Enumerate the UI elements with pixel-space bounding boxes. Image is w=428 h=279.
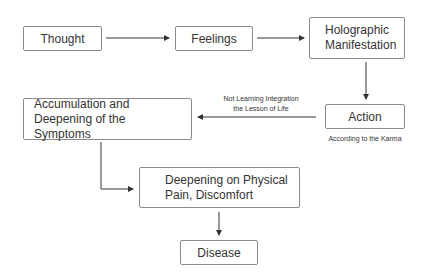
node-deepening-label: Deepening on Physical Pain, Discomfort <box>165 173 289 203</box>
node-holographic-label: Holographic Manifestation <box>325 23 396 53</box>
node-feelings-label: Feelings <box>191 32 236 46</box>
node-disease: Disease <box>180 240 258 265</box>
label-not-learning-line2: the Lesson of Life <box>206 104 316 114</box>
node-accumulation: Accumulation and Deepening of the Sympto… <box>23 98 192 140</box>
label-not-learning-line1: Not Learning Integration <box>206 94 316 104</box>
node-holographic-manifestation: Holographic Manifestation <box>309 17 405 59</box>
node-feelings: Feelings <box>175 26 253 51</box>
node-thought-label: Thought <box>40 32 84 46</box>
node-action: Action <box>325 104 405 129</box>
node-deepening: Deepening on Physical Pain, Discomfort <box>139 167 300 208</box>
node-disease-label: Disease <box>197 246 240 260</box>
node-thought: Thought <box>23 26 102 51</box>
arrow-accumulation-deepening <box>101 142 133 189</box>
label-not-learning: Not Learning Integration the Lesson of L… <box>206 94 316 114</box>
node-action-label: Action <box>348 110 381 124</box>
node-accumulation-label: Accumulation and Deepening of the Sympto… <box>34 97 183 142</box>
label-according-to-karma: According to the Karma <box>305 134 425 144</box>
